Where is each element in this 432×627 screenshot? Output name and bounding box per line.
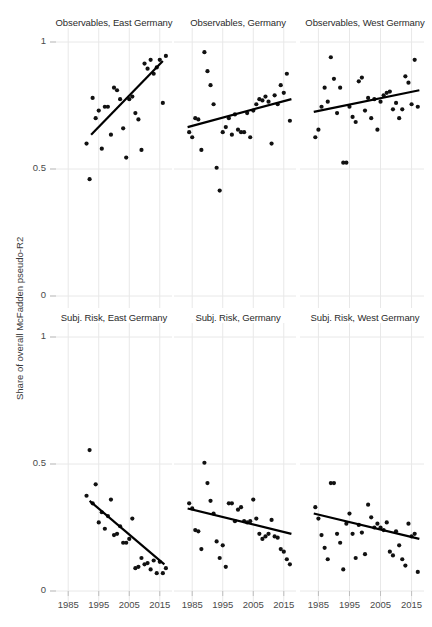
data-point — [347, 105, 351, 109]
trend-line — [188, 508, 292, 533]
trend-line — [90, 501, 165, 565]
data-point — [208, 499, 212, 503]
data-point — [187, 501, 191, 505]
data-point — [279, 83, 283, 87]
data-point — [260, 537, 264, 541]
data-point — [84, 494, 88, 498]
data-point — [199, 148, 203, 152]
data-point — [394, 101, 398, 105]
data-point — [136, 565, 140, 569]
data-point — [236, 128, 240, 132]
y-tick-label: 0 — [18, 289, 46, 300]
data-point — [218, 556, 222, 560]
data-point — [335, 532, 339, 536]
data-point — [124, 155, 128, 159]
data-point — [133, 111, 137, 115]
data-point — [357, 79, 361, 83]
data-point — [155, 65, 159, 69]
trend-line — [91, 61, 163, 135]
data-point — [326, 100, 330, 104]
data-point — [164, 54, 168, 58]
data-point — [248, 135, 252, 139]
data-point — [397, 116, 401, 120]
data-point — [366, 96, 370, 100]
data-point — [269, 142, 273, 146]
data-point — [350, 115, 354, 119]
data-point — [276, 536, 280, 540]
data-point — [391, 553, 395, 557]
data-point — [94, 116, 98, 120]
data-point — [118, 524, 122, 528]
data-point — [106, 514, 110, 518]
data-point — [403, 74, 407, 78]
data-point — [161, 101, 165, 105]
data-point — [190, 135, 194, 139]
data-point — [205, 69, 209, 73]
data-point — [357, 523, 361, 527]
chart-figure: Share of overall McFadden pseudo-R2 00.5… — [0, 0, 432, 627]
data-point — [145, 67, 149, 71]
data-point — [233, 519, 237, 523]
data-point — [230, 501, 234, 505]
data-point — [254, 102, 258, 106]
data-point — [139, 148, 143, 152]
panel-title: Observables, West Germany — [284, 17, 432, 28]
data-point — [338, 86, 342, 90]
data-point — [130, 517, 134, 521]
data-point — [266, 100, 270, 104]
y-tick-label: 0.5 — [18, 162, 46, 173]
data-point — [378, 525, 382, 529]
data-point — [397, 543, 401, 547]
data-point — [409, 534, 413, 538]
data-point — [215, 166, 219, 170]
data-point — [164, 566, 168, 570]
data-point — [109, 133, 113, 137]
data-point — [221, 130, 225, 134]
data-point — [385, 520, 389, 524]
data-point — [335, 111, 339, 115]
data-point — [230, 133, 234, 137]
data-point — [121, 126, 125, 130]
data-point — [313, 135, 317, 139]
data-point — [100, 147, 104, 151]
data-point — [127, 97, 131, 101]
data-point — [326, 557, 330, 561]
data-point — [416, 105, 420, 109]
data-point — [329, 481, 333, 485]
y-axis-title: Share of overall McFadden pseudo-R2 — [14, 237, 25, 400]
data-point — [196, 529, 200, 533]
data-point — [193, 528, 197, 532]
data-point — [394, 529, 398, 533]
data-point — [400, 557, 404, 561]
data-point — [187, 130, 191, 134]
data-point — [344, 161, 348, 165]
data-point — [224, 565, 228, 569]
data-point — [257, 532, 261, 536]
data-point — [97, 108, 101, 112]
data-point — [341, 161, 345, 165]
data-point — [385, 91, 389, 95]
data-point — [152, 558, 156, 562]
data-point — [273, 534, 277, 538]
data-point — [254, 517, 258, 521]
data-point — [112, 533, 116, 537]
data-point — [332, 481, 336, 485]
data-point — [91, 96, 95, 100]
data-point — [251, 497, 255, 501]
data-point — [242, 130, 246, 134]
data-point — [215, 539, 219, 543]
data-point — [388, 89, 392, 93]
data-point — [316, 517, 320, 521]
data-point — [208, 83, 212, 87]
data-point — [382, 528, 386, 532]
data-point — [142, 61, 146, 65]
data-point — [263, 95, 267, 99]
data-point — [319, 533, 323, 537]
data-point — [276, 102, 280, 106]
data-point — [248, 519, 252, 523]
data-point — [378, 100, 382, 104]
data-point — [406, 81, 410, 85]
y-tick-label: 1 — [18, 35, 46, 46]
data-point — [158, 560, 162, 564]
data-point — [319, 105, 323, 109]
